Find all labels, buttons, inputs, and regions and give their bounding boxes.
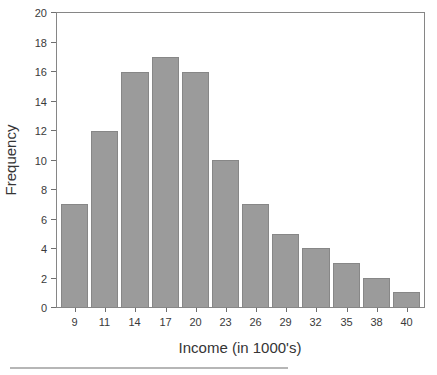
x-tick-mark xyxy=(226,308,227,312)
x-tick-mark xyxy=(377,308,378,312)
y-tick-mark xyxy=(51,189,56,190)
y-tick-mark xyxy=(51,307,56,308)
y-axis-title: Frequency xyxy=(2,125,19,196)
y-tick-mark xyxy=(51,130,56,131)
y-tick-mark xyxy=(51,248,56,249)
x-tick-label: 9 xyxy=(58,316,92,328)
bar-38 xyxy=(363,278,390,307)
bar-14 xyxy=(121,72,148,307)
x-tick-mark xyxy=(75,308,76,312)
bar-17 xyxy=(152,57,179,307)
x-tick-label: 23 xyxy=(209,316,243,328)
y-tick-label: 16 xyxy=(0,66,47,78)
bar-40 xyxy=(393,292,420,307)
x-tick-mark xyxy=(135,308,136,312)
x-tick-label: 17 xyxy=(149,316,183,328)
x-tick-mark xyxy=(196,308,197,312)
y-tick-label: 2 xyxy=(0,273,47,285)
bar-26 xyxy=(242,204,269,307)
plot-area xyxy=(56,12,425,308)
x-tick-label: 38 xyxy=(360,316,394,328)
y-tick-mark xyxy=(51,71,56,72)
y-tick-label: 0 xyxy=(0,302,47,314)
y-tick-label: 4 xyxy=(0,243,47,255)
y-tick-label: 20 xyxy=(0,7,47,19)
y-tick-mark xyxy=(51,219,56,220)
y-tick-label: 18 xyxy=(0,37,47,49)
x-tick-mark xyxy=(407,308,408,312)
y-tick-mark xyxy=(51,160,56,161)
y-tick-mark xyxy=(51,12,56,13)
figure-canvas: 02468101214161820 9111417202326293235384… xyxy=(0,0,437,375)
x-tick-label: 26 xyxy=(239,316,273,328)
x-tick-label: 14 xyxy=(118,316,152,328)
x-tick-label: 11 xyxy=(88,316,122,328)
bar-23 xyxy=(212,160,239,307)
x-tick-mark xyxy=(347,308,348,312)
x-tick-mark xyxy=(105,308,106,312)
y-tick-label: 14 xyxy=(0,96,47,108)
x-tick-mark xyxy=(286,308,287,312)
y-tick-mark xyxy=(51,101,56,102)
x-tick-label: 29 xyxy=(269,316,303,328)
x-tick-label: 20 xyxy=(179,316,213,328)
y-tick-label: 6 xyxy=(0,214,47,226)
x-tick-mark xyxy=(256,308,257,312)
x-tick-label: 32 xyxy=(299,316,333,328)
bar-29 xyxy=(272,234,299,308)
y-tick-mark xyxy=(51,278,56,279)
bar-35 xyxy=(333,263,360,307)
x-tick-label: 35 xyxy=(330,316,364,328)
bar-11 xyxy=(91,131,118,307)
y-tick-mark xyxy=(51,42,56,43)
bar-9 xyxy=(61,204,88,307)
bar-20 xyxy=(182,72,209,307)
x-tick-label: 40 xyxy=(390,316,424,328)
bottom-rule xyxy=(10,367,288,369)
x-tick-mark xyxy=(316,308,317,312)
bar-32 xyxy=(302,248,329,307)
bars-container xyxy=(57,13,424,307)
x-tick-mark xyxy=(166,308,167,312)
x-axis-title: Income (in 1000's) xyxy=(179,339,302,356)
